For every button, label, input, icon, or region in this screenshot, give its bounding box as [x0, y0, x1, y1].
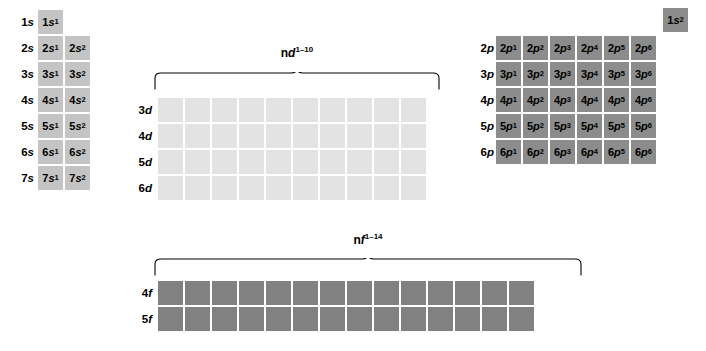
f_block-cell — [320, 281, 345, 305]
f_block-cell — [482, 307, 507, 331]
d-caption-exponent: 1–10 — [295, 45, 313, 54]
p_block-cell-2p2-orbital: p — [533, 43, 540, 54]
p_block-cell-4p4-orbital: p — [587, 95, 594, 106]
s_block-cell-2s2: 2s2 — [65, 36, 90, 60]
d_block-cell — [158, 176, 183, 200]
p_block-row: 6p16p26p36p46p56p6 — [496, 140, 658, 164]
s_block-cell-3s2-orbital: s — [75, 69, 81, 80]
p_block-cell-3p3: 3p3 — [550, 62, 575, 86]
f_block-cell — [374, 281, 399, 305]
f-block-brace — [154, 258, 582, 276]
p_block-cell-2p1-orbital: p — [506, 43, 513, 54]
s_block-cell-6s1: 6s1 — [38, 140, 63, 164]
s_block-row: 3s13s2 — [38, 62, 92, 86]
s_block-cell-3s1: 3s1 — [38, 62, 63, 86]
d_block-cell — [374, 98, 399, 122]
p_block-cell-2p3-orbital: p — [560, 43, 567, 54]
s_block-row-label: 2s — [0, 36, 34, 60]
p_block-cell-2p1: 2p1 — [496, 36, 521, 60]
p_block-cell-3p1: 3p1 — [496, 62, 521, 86]
d_block-cell — [158, 98, 183, 122]
f_block-cell — [158, 307, 183, 331]
f-block-caption: nf1–14 — [154, 233, 582, 247]
d_block-cell — [347, 124, 372, 148]
d_block-cell — [374, 150, 399, 174]
p_block-cell-2p2: 2p2 — [523, 36, 548, 60]
f_block-cell — [266, 307, 291, 331]
f_block-cell — [509, 281, 534, 305]
d_block-cell — [347, 176, 372, 200]
d_block-cell — [185, 150, 210, 174]
f_block-cell — [482, 281, 507, 305]
p_block-row-label: 4p — [474, 88, 494, 112]
d_block-row-label: 3d — [126, 98, 152, 122]
s_block-row-label-orbital: s — [28, 68, 34, 80]
p_block-cell-5p2-orbital: p — [533, 121, 540, 132]
p_block-cell-6p6: 6p6 — [631, 140, 656, 164]
s_block-row-label: 1s — [0, 10, 34, 34]
d_block-cell — [185, 176, 210, 200]
p_block-cell-2p6-orbital: p — [641, 43, 648, 54]
p_block-cell-3p5-orbital: p — [614, 69, 621, 80]
d-block-brace — [154, 72, 440, 90]
corner-cell-1s2-box: 1s2 — [663, 8, 688, 32]
p_block-cell-3p2-orbital: p — [533, 69, 540, 80]
f_block-cell — [455, 307, 480, 331]
d-block-caption: nd1–10 — [154, 46, 440, 60]
p_block-cell-5p5-orbital: p — [614, 121, 621, 132]
s_block-cell-2s1: 2s1 — [38, 36, 63, 60]
d_block-cell — [239, 98, 264, 122]
corner-cell-1s2: 1s2 — [663, 8, 688, 32]
s_block-cell-4s1: 4s1 — [38, 88, 63, 112]
p_block-row-label: 3p — [474, 62, 494, 86]
p_block-cell-4p1: 4p1 — [496, 88, 521, 112]
s_block-row-label: 4s — [0, 88, 34, 112]
f_block-cell — [320, 307, 345, 331]
p_block-cell-5p2: 5p2 — [523, 114, 548, 138]
s_block-cell-4s2: 4s2 — [65, 88, 90, 112]
p_block-cell-6p4-orbital: p — [587, 147, 594, 158]
p_block-cell-6p2-orbital: p — [533, 147, 540, 158]
p_block-cell-2p5-orbital: p — [614, 43, 621, 54]
d_block-cell — [401, 150, 426, 174]
d-caption-n: n — [281, 46, 288, 60]
p_block-cell-4p2: 4p2 — [523, 88, 548, 112]
s_block-cell-7s2: 7s2 — [65, 166, 90, 190]
d_block-cell — [212, 124, 237, 148]
s_block-row: 6s16s2 — [38, 140, 92, 164]
f_block-cell — [212, 281, 237, 305]
s_block-cell-7s2-orbital: s — [75, 173, 81, 184]
d_block-cell — [293, 176, 318, 200]
p_block-cell-4p3: 4p3 — [550, 88, 575, 112]
p_block-row-label-orbital: p — [487, 42, 494, 54]
d_block-cell — [212, 176, 237, 200]
d_block-cell — [158, 124, 183, 148]
p_block-cell-5p1: 5p1 — [496, 114, 521, 138]
p_block-cell-3p1-orbital: p — [506, 69, 513, 80]
f-caption-n: n — [353, 233, 360, 247]
d_block-cell — [320, 176, 345, 200]
d_block-cell — [347, 150, 372, 174]
p_block-cell-5p3: 5p3 — [550, 114, 575, 138]
f_block-cell — [401, 307, 426, 331]
s_block-cell-1s1-orbital: s — [48, 17, 54, 28]
d_block-cell — [374, 176, 399, 200]
s_block-row-label-orbital: s — [28, 172, 34, 184]
f_block-cell — [374, 307, 399, 331]
d_block-cell — [158, 150, 183, 174]
corner-cell-1s2-box-orbital: s — [673, 15, 679, 26]
f-caption-exponent: 1–14 — [365, 232, 383, 241]
p_block-cell-5p3-orbital: p — [560, 121, 567, 132]
d_block-cell — [293, 150, 318, 174]
p_block-cell-2p5: 2p5 — [604, 36, 629, 60]
p_block-cell-6p3-orbital: p — [560, 147, 567, 158]
p_block-cell-5p4: 5p4 — [577, 114, 602, 138]
p_block-row-label: 6p — [474, 140, 494, 164]
f_block-cell — [428, 307, 453, 331]
d_block-row-label: 4d — [126, 124, 152, 148]
s_block-cell-3s2: 3s2 — [65, 62, 90, 86]
s_block-cell-5s1-orbital: s — [48, 121, 54, 132]
f_block-row-label: 5f — [126, 307, 152, 331]
p_block-cell-5p1-orbital: p — [506, 121, 513, 132]
s_block-row-label: 6s — [0, 140, 34, 164]
